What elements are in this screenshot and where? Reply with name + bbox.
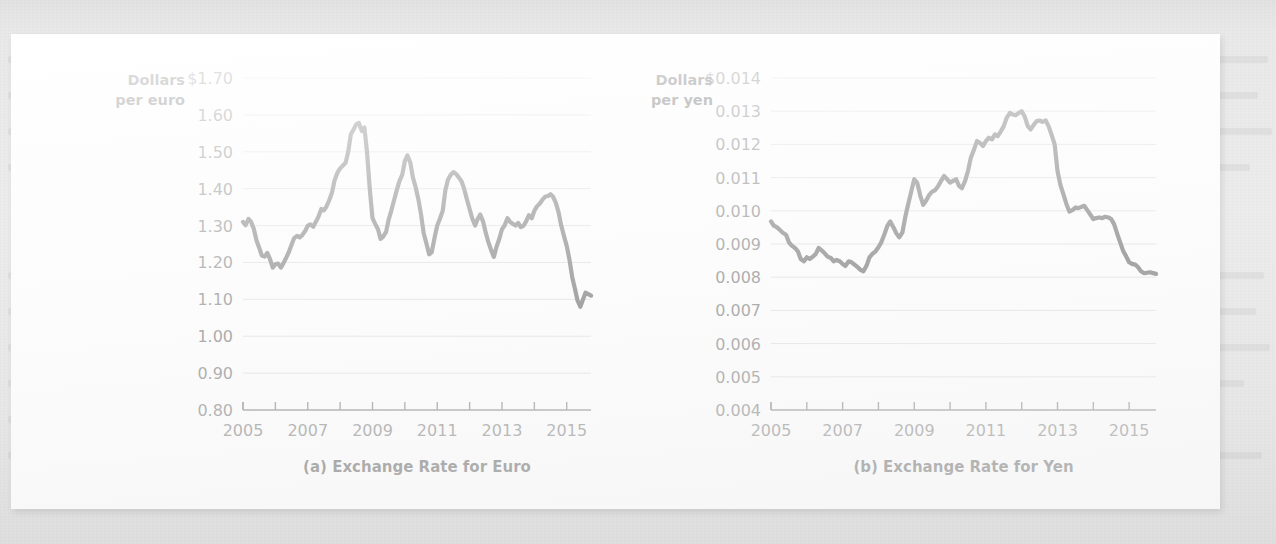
series-line-yen xyxy=(771,111,1156,274)
y-tick-label: 0.005 xyxy=(715,368,761,387)
series-line-euro xyxy=(243,123,591,307)
y-tick-label: 0.90 xyxy=(197,364,233,383)
y-tick-label: 0.010 xyxy=(715,202,761,221)
chart-caption: (b) Exchange Rate for Yen xyxy=(853,458,1073,476)
y-gridlines: $1.701.601.501.401.301.201.101.000.900.8… xyxy=(187,69,591,420)
x-axis: 200520072009201120132015 xyxy=(223,402,591,440)
y-tick-label: 0.007 xyxy=(715,301,761,320)
y-tick-label: 0.004 xyxy=(715,401,761,420)
x-axis: 200520072009201120132015 xyxy=(751,402,1156,440)
y-axis-unit-label-line2: per yen xyxy=(651,92,713,108)
y-tick-label: 0.006 xyxy=(715,335,761,354)
y-tick-label: 1.30 xyxy=(197,217,233,236)
chart-caption: (a) Exchange Rate for Euro xyxy=(303,458,531,476)
y-axis-unit-label-line1: Dollars xyxy=(655,72,713,88)
chart-svg-yen: $0.0140.0130.0120.0110.0100.0090.0080.00… xyxy=(611,34,1211,509)
y-tick-label: 0.008 xyxy=(715,268,761,287)
chart-exchange-rate-yen: $0.0140.0130.0120.0110.0100.0090.0080.00… xyxy=(611,34,1211,509)
y-tick-label: 1.60 xyxy=(197,106,233,125)
y-tick-label: 0.012 xyxy=(715,135,761,154)
x-tick-label: 2005 xyxy=(751,421,792,440)
x-tick-label: 2007 xyxy=(822,421,863,440)
y-tick-label: 1.40 xyxy=(197,180,233,199)
figure-panel: $1.701.601.501.401.301.201.101.000.900.8… xyxy=(11,34,1220,509)
x-tick-label: 2015 xyxy=(546,421,587,440)
x-tick-label: 2009 xyxy=(894,421,935,440)
y-gridlines: $0.0140.0130.0120.0110.0100.0090.0080.00… xyxy=(705,69,1156,420)
y-tick-label: 0.80 xyxy=(197,401,233,420)
y-axis-unit-label-line2: per euro xyxy=(115,92,185,108)
y-tick-label: $1.70 xyxy=(187,69,233,88)
x-tick-label: 2013 xyxy=(1037,421,1078,440)
y-tick-label: 1.00 xyxy=(197,327,233,346)
x-tick-label: 2015 xyxy=(1109,421,1150,440)
x-tick-label: 2011 xyxy=(417,421,458,440)
x-tick-label: 2013 xyxy=(482,421,523,440)
x-tick-label: 2009 xyxy=(352,421,393,440)
chart-svg-euro: $1.701.601.501.401.301.201.101.000.900.8… xyxy=(51,34,631,509)
x-tick-label: 2007 xyxy=(287,421,328,440)
y-tick-label: 0.009 xyxy=(715,235,761,254)
y-tick-label: 1.50 xyxy=(197,143,233,162)
y-tick-label: 0.011 xyxy=(715,169,761,188)
y-tick-label: 0.013 xyxy=(715,102,761,121)
y-tick-label: 1.20 xyxy=(197,253,233,272)
y-tick-label: $0.014 xyxy=(705,69,761,88)
y-axis-unit-label-line1: Dollars xyxy=(127,72,185,88)
y-tick-label: 1.10 xyxy=(197,290,233,309)
x-tick-label: 2011 xyxy=(966,421,1007,440)
x-tick-label: 2005 xyxy=(223,421,264,440)
chart-exchange-rate-euro: $1.701.601.501.401.301.201.101.000.900.8… xyxy=(51,34,631,509)
